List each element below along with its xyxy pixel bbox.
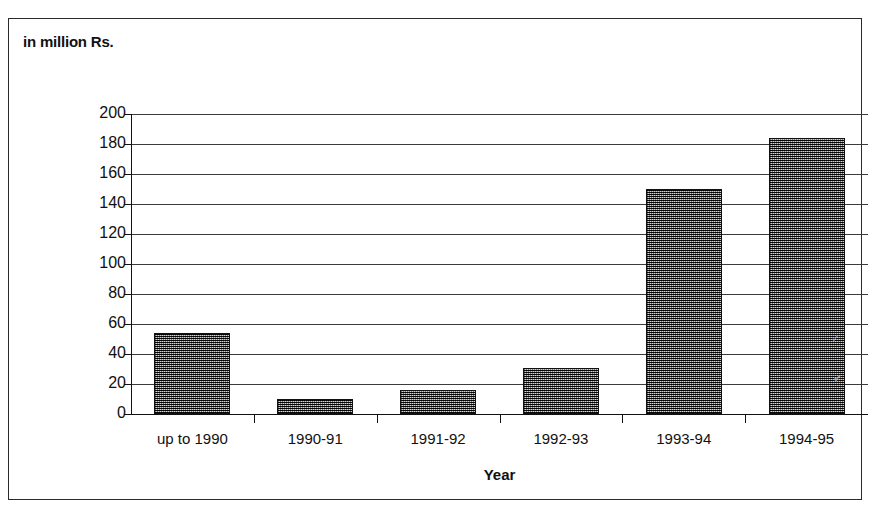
chart-figure: in million Rs. 0204060801001201401601802… [8, 18, 862, 500]
gridline [131, 264, 868, 265]
x-axis-tick [745, 414, 746, 423]
y-axis-label: 80 [108, 284, 126, 302]
x-axis-label: 1994-95 [745, 430, 868, 447]
bar [646, 189, 722, 414]
x-axis-tick [377, 414, 378, 423]
bar [154, 333, 230, 414]
bar [400, 390, 476, 414]
x-axis-label: up to 1990 [131, 430, 254, 447]
gridline [131, 174, 868, 175]
gridline [131, 144, 868, 145]
y-axis-label: 140 [99, 194, 126, 212]
gridline [131, 384, 868, 385]
gridline [131, 294, 868, 295]
bar [523, 368, 599, 415]
gridline [131, 114, 868, 115]
y-axis-label: 20 [108, 374, 126, 392]
x-axis-tick [622, 414, 623, 423]
x-axis-label: 1991-92 [377, 430, 500, 447]
y-axis-label: 180 [99, 134, 126, 152]
x-axis-tick [500, 414, 501, 423]
x-axis-title: Year [131, 466, 868, 483]
y-axis-label: 0 [117, 404, 126, 422]
x-axis-label: 1990-91 [254, 430, 377, 447]
x-axis-tick [254, 414, 255, 423]
x-axis-label: 1992-93 [500, 430, 623, 447]
y-axis-label: 60 [108, 314, 126, 332]
y-axis-label: 160 [99, 164, 126, 182]
gridline [131, 354, 868, 355]
gridline [131, 324, 868, 325]
y-axis-label: 120 [99, 224, 126, 242]
gridline [131, 234, 868, 235]
y-axis-label: 40 [108, 344, 126, 362]
y-axis-label: 200 [99, 104, 126, 122]
bar [277, 399, 353, 414]
scan-artifact-1: ✓ [831, 332, 840, 345]
y-axis-label: 100 [99, 254, 126, 272]
scan-artifact-2: ✔ [833, 372, 842, 385]
chart-caption: in million Rs. [23, 33, 114, 50]
x-axis-label: 1993-94 [622, 430, 745, 447]
plot-area: 020406080100120140160180200 up to 199019… [131, 114, 868, 414]
gridline [131, 204, 868, 205]
